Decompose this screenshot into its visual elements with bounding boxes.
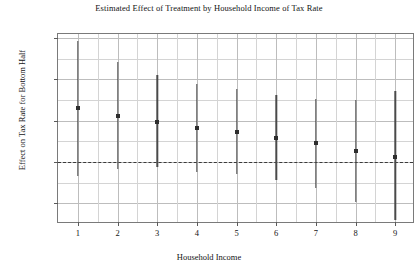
data-point-marker — [76, 106, 80, 110]
x-axis-tick-mark — [157, 222, 158, 226]
x-axis-tick-mark — [78, 222, 79, 226]
plot-area: 0.60.40.20.0-0.2123456789 — [57, 33, 414, 223]
data-point-marker — [235, 130, 239, 134]
gridline-vertical — [256, 34, 257, 222]
x-axis-label: Household Income — [0, 252, 418, 262]
y-axis-tick-mark — [54, 121, 58, 122]
x-axis-tick-mark — [197, 222, 198, 226]
gridline-horizontal — [58, 79, 413, 80]
chart-title: Estimated Effect of Treatment by Househo… — [0, 3, 418, 13]
data-point-marker — [155, 120, 159, 124]
data-point-marker — [354, 149, 358, 153]
x-axis-tick-mark — [356, 222, 357, 226]
x-axis-tick-label: 4 — [195, 228, 199, 238]
gridline-horizontal — [58, 59, 413, 60]
gridline-horizontal — [58, 203, 413, 204]
gridline-vertical — [296, 34, 297, 222]
x-axis-tick-mark — [237, 222, 238, 226]
gridline-vertical — [98, 34, 99, 222]
x-axis-tick-label: 6 — [274, 228, 278, 238]
x-axis-tick-mark — [118, 222, 119, 226]
gridline-vertical — [375, 34, 376, 222]
x-axis-tick-label: 9 — [393, 228, 397, 238]
data-point-marker — [116, 114, 120, 118]
gridline-vertical — [217, 34, 218, 222]
chart-figure: Estimated Effect of Treatment by Househo… — [0, 0, 418, 274]
x-axis-tick-label: 7 — [314, 228, 318, 238]
gridline-horizontal — [58, 38, 413, 39]
x-axis-tick-label: 1 — [76, 228, 80, 238]
gridline-vertical — [177, 34, 178, 222]
gridline-vertical — [336, 34, 337, 222]
x-axis-tick-mark — [395, 222, 396, 226]
data-point-marker — [314, 141, 318, 145]
x-axis-tick-mark — [276, 222, 277, 226]
y-axis-tick-mark — [54, 79, 58, 80]
x-axis-tick-label: 2 — [115, 228, 119, 238]
x-axis-tick-label: 3 — [155, 228, 159, 238]
gridline-vertical — [137, 34, 138, 222]
y-axis-label: Effect on Tax Rate for Bottom Half — [17, 20, 27, 200]
data-point-marker — [393, 155, 397, 159]
y-axis-tick-mark — [54, 162, 58, 163]
y-axis-tick-mark — [54, 38, 58, 39]
data-point-marker — [274, 136, 278, 140]
x-axis-tick-label: 8 — [353, 228, 357, 238]
x-axis-tick-mark — [316, 222, 317, 226]
x-axis-tick-label: 5 — [234, 228, 238, 238]
data-point-marker — [195, 126, 199, 130]
y-axis-tick-mark — [54, 203, 58, 204]
gridline-horizontal — [58, 183, 413, 184]
